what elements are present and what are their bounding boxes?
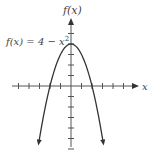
- x-axis-arrow-icon: [132, 83, 139, 89]
- x-axis-label: x: [142, 81, 148, 92]
- function-graph: f(x) x f(x) = 4 − x2: [0, 0, 152, 151]
- y-axis-arrow-icon: [68, 18, 74, 25]
- function-label: f(x) = 4 − x2: [5, 35, 69, 47]
- curve-arrow-right-icon: [100, 139, 105, 145]
- curve-arrow-left-icon: [37, 139, 42, 145]
- x-axis: [12, 83, 139, 89]
- y-axis-label: f(x): [62, 4, 82, 17]
